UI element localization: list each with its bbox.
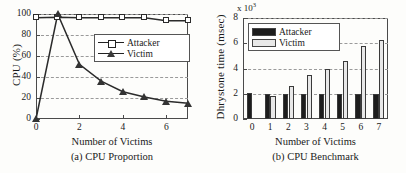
- data-point-attacker: [185, 17, 191, 23]
- data-point-victim: [162, 98, 170, 105]
- legend-item-attacker: Attacker: [98, 37, 186, 48]
- bar-victim: [379, 40, 384, 119]
- bar-attacker: [337, 94, 342, 119]
- bar-victim: [307, 75, 312, 119]
- x-tick-label: 3: [296, 122, 316, 132]
- panel-a-caption: (a) CPU Proportion: [16, 151, 208, 162]
- multiplier-exponent: 3: [253, 1, 256, 8]
- y-tick-mark: [243, 69, 247, 70]
- figure-container: CPU (%) 020406080100 0246 Attacker Victi…: [0, 0, 406, 173]
- bar-victim: [343, 61, 348, 119]
- x-tick-label: 6: [351, 122, 371, 132]
- data-point-victim: [140, 93, 148, 100]
- y-tick-label: 2: [213, 88, 238, 98]
- legend-label-attacker: Attacker: [127, 38, 160, 48]
- data-point-victim: [75, 61, 83, 68]
- y-tick-label: 8: [213, 12, 238, 22]
- multiplier-prefix: x 10: [237, 3, 253, 13]
- data-point-attacker: [119, 14, 125, 20]
- panel-a-legend: Attacker Victim: [94, 34, 190, 62]
- data-point-victim: [184, 100, 192, 107]
- y-tick-label: 0: [213, 113, 238, 123]
- legend-item-attacker: Attacker: [252, 26, 336, 37]
- y-tick-label: 6: [213, 37, 238, 47]
- bar-attacker: [301, 94, 306, 119]
- panel-b-axis-multiplier: x 103: [237, 1, 256, 13]
- data-point-victim: [119, 88, 127, 95]
- black-swatch-icon: [252, 28, 276, 36]
- legend-label-attacker: Attacker: [279, 27, 312, 37]
- panel-b-x-axis-label: Number of Victims: [223, 136, 406, 147]
- data-point-attacker: [163, 17, 169, 23]
- data-point-attacker: [33, 14, 39, 20]
- panel-a-x-axis-label: Number of Victims: [16, 136, 208, 147]
- x-tick-label: 7: [369, 122, 389, 132]
- y-tick-label: 4: [213, 63, 238, 73]
- data-point-attacker: [98, 14, 104, 20]
- data-point-victim: [32, 115, 40, 122]
- bar-attacker: [355, 94, 360, 119]
- panel-cpu-proportion: CPU (%) 020406080100 0246 Attacker Victi…: [0, 0, 203, 173]
- x-tick-label: 4: [315, 122, 335, 132]
- legend-item-victim: Victim: [252, 37, 336, 48]
- legend-item-victim: Victim: [98, 48, 186, 59]
- panel-b-legend: Attacker Victim: [248, 23, 340, 51]
- x-tick-label: 0: [242, 122, 262, 132]
- bar-attacker: [247, 93, 252, 119]
- bar-attacker: [319, 94, 324, 119]
- bar-victim: [325, 69, 330, 119]
- data-point-attacker: [141, 14, 147, 20]
- bar-attacker: [265, 94, 270, 119]
- data-point-attacker: [76, 14, 82, 20]
- x-tick-label: 2: [278, 122, 298, 132]
- legend-label-victim: Victim: [279, 38, 305, 48]
- bar-victim: [361, 46, 366, 119]
- legend-label-victim: Victim: [127, 49, 153, 59]
- bar-attacker: [283, 94, 288, 119]
- light-gray-swatch-icon: [252, 39, 276, 47]
- x-tick-label: 5: [333, 122, 353, 132]
- gridline: [243, 18, 388, 19]
- y-tick-mark: [243, 43, 247, 44]
- panel-cpu-benchmark: Dhrystone time (msec) x 103 02468 012345…: [203, 0, 406, 173]
- bar-victim: [270, 96, 275, 119]
- panel-b-caption: (b) CPU Benchmark: [223, 151, 406, 162]
- panel-a-lines: [0, 0, 203, 173]
- data-point-victim: [97, 78, 105, 85]
- x-tick-label: 1: [260, 122, 280, 132]
- data-point-victim: [54, 10, 62, 17]
- y-tick-mark: [243, 119, 247, 120]
- bar-attacker: [373, 94, 378, 119]
- square-marker-icon: [98, 38, 124, 48]
- y-tick-mark: [243, 18, 247, 19]
- triangle-marker-icon: [98, 49, 124, 59]
- bar-victim: [289, 86, 294, 119]
